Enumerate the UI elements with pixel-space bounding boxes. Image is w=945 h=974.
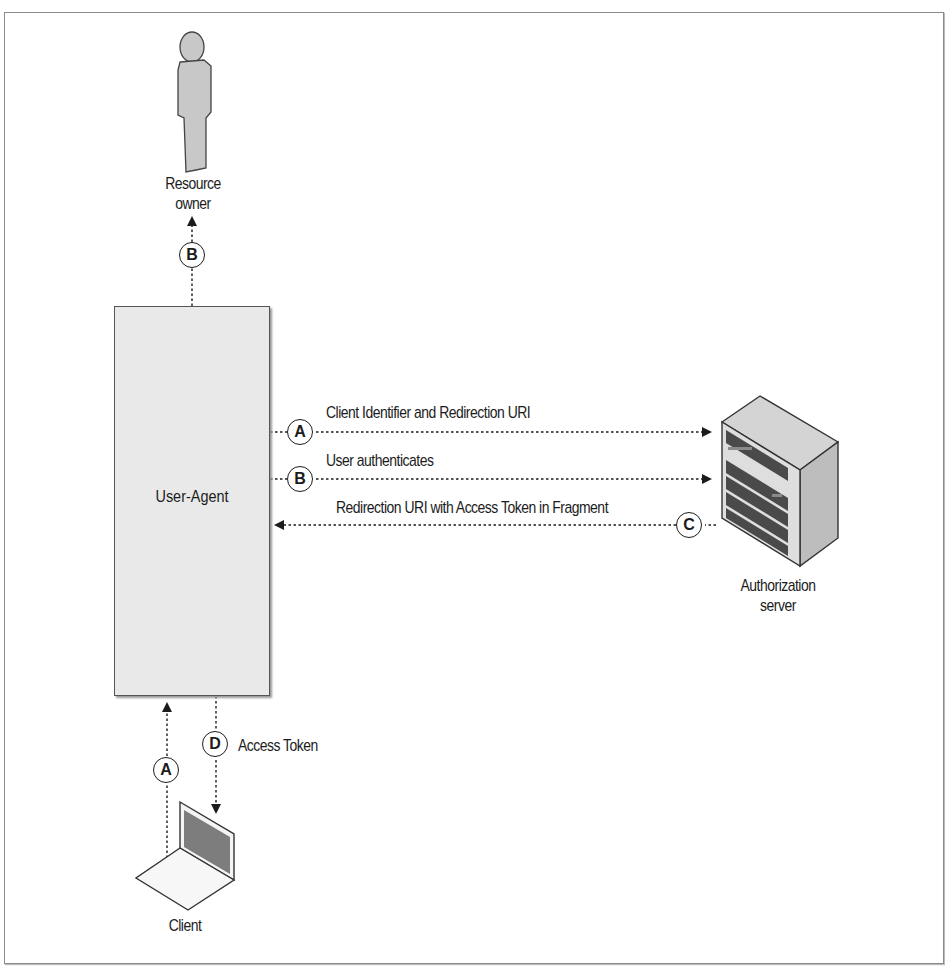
- step-badge-a-client: A: [153, 757, 179, 783]
- server-rack-icon: [722, 396, 838, 566]
- flow-label-access-token: Access Token: [238, 736, 318, 756]
- authorization-server-label: Authorization server: [732, 576, 824, 616]
- authorization-server-label-line1: Authorization: [732, 576, 824, 596]
- user-agent-label: User-Agent: [127, 487, 258, 507]
- step-badge-c-redirect: C: [676, 512, 702, 538]
- step-badge-a-auth-request: A: [287, 419, 313, 445]
- flow-label-client-identifier: Client Identifier and Redirection URI: [326, 403, 530, 423]
- flow-label-user-authenticates: User authenticates: [326, 451, 433, 471]
- step-badge-d-access-token: D: [202, 731, 228, 757]
- person-icon: [178, 32, 211, 172]
- laptop-icon: [136, 802, 234, 910]
- resource-owner-label-line1: Resource: [159, 174, 226, 194]
- resource-owner-label-line2: owner: [159, 194, 226, 214]
- resource-owner-label: Resource owner: [159, 174, 226, 214]
- user-agent-box: User-Agent: [114, 306, 270, 696]
- flow-label-redirection-uri: Redirection URI with Access Token in Fra…: [336, 498, 608, 518]
- client-label: Client: [160, 916, 209, 936]
- step-badge-b-authenticate: B: [287, 466, 313, 492]
- authorization-server-label-line2: server: [732, 596, 824, 616]
- step-badge-b-resource-owner: B: [179, 242, 205, 268]
